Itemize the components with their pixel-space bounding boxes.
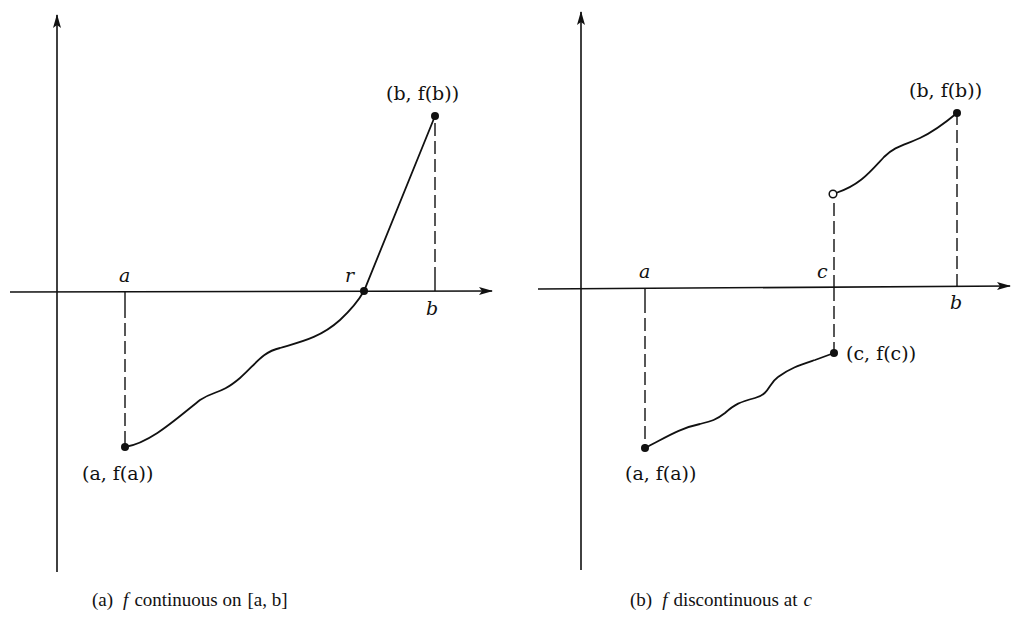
label-point-a: (a, f(a)) — [625, 462, 696, 484]
function-curve — [125, 116, 435, 447]
label-point-c: (c, f(c)) — [846, 342, 916, 364]
point-a-fa — [121, 443, 129, 451]
panel-a: a r b (b, f(b)) (a, f(a)) (a)fcontinuous… — [10, 15, 492, 611]
function-curve-right — [836, 113, 957, 193]
x-axis — [10, 291, 492, 292]
open-point-c — [829, 190, 837, 198]
point-a-fa — [641, 444, 649, 452]
label-point-a: (a, f(a)) — [82, 462, 153, 484]
function-curve-left — [645, 353, 834, 448]
caption-a: (a)fcontinuous on[a, b] — [92, 589, 288, 611]
point-b-fb — [953, 109, 961, 117]
label-point-b: (b, f(b)) — [909, 79, 982, 101]
label-r: r — [345, 264, 356, 286]
label-b: b — [426, 297, 438, 319]
label-b: b — [950, 291, 962, 313]
point-r — [360, 287, 368, 295]
label-a: a — [639, 260, 650, 282]
x-axis — [538, 286, 1010, 289]
figure-canvas: a r b (b, f(b)) (a, f(a)) (a)fcontinuous… — [0, 0, 1016, 618]
point-b-fb — [431, 112, 439, 120]
label-point-b: (b, f(b)) — [386, 82, 459, 104]
point-c-fc — [830, 349, 838, 357]
label-a: a — [119, 264, 130, 286]
label-c: c — [817, 260, 828, 282]
panel-b: a c b (b, f(b)) (c, f(c)) (a, f(a)) (b)f… — [538, 12, 1010, 611]
caption-b: (b)fdiscontinuous atc — [630, 589, 812, 611]
